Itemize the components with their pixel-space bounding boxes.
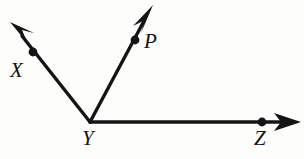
geometry-figure: X P Y Z — [0, 0, 304, 159]
point-label-x: X — [10, 60, 23, 81]
point-label-y: Y — [82, 128, 94, 149]
point-label-z: Z — [254, 128, 266, 149]
ray-yx-arrowhead — [10, 22, 34, 44]
vertex-y-point — [88, 120, 91, 123]
ray-yp — [90, 5, 153, 122]
point-x-dot — [29, 48, 38, 57]
ray-yz — [90, 113, 301, 131]
point-label-p: P — [144, 31, 157, 52]
point-p-dot — [131, 36, 140, 45]
